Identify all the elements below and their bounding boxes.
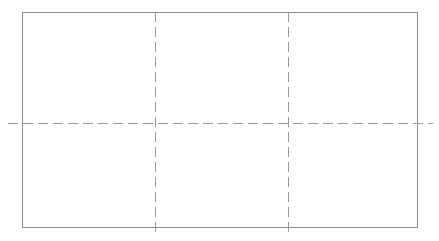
cell-top-right[interactable]: [289, 13, 417, 123]
cell-bottom-right[interactable]: [289, 124, 417, 227]
cell-top-center[interactable]: [156, 13, 288, 123]
grid-overlay-canvas: [0, 0, 439, 241]
frame-edge-right: [417, 12, 418, 228]
frame-edge-bottom: [22, 227, 418, 228]
cell-bottom-left[interactable]: [23, 124, 155, 227]
cell-top-left[interactable]: [23, 13, 155, 123]
cell-bottom-center[interactable]: [156, 124, 288, 227]
